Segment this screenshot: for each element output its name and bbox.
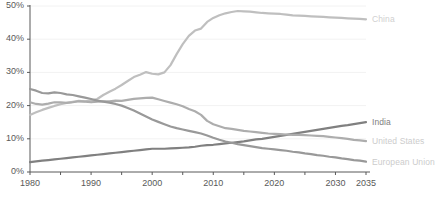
x-axis-tick-label: 2020 [254,178,294,188]
series-line-china [30,11,366,115]
series-line-european-union [30,89,366,162]
series-label-china: China [372,14,395,24]
series-label-united-states: United States [372,136,424,146]
chart-plot-area [0,0,438,199]
y-axis-tick-label: 30% [0,66,24,76]
y-axis-tick-label: 20% [0,100,24,110]
series-line-united-states [30,98,366,141]
y-axis-tick-label: 40% [0,33,24,43]
line-chart: 0%10%20%30%40%50%19801990200020102020203… [0,0,438,199]
y-axis-tick-label: 10% [0,133,24,143]
series-line-india [30,122,366,162]
x-axis-tick-label: 1980 [10,178,50,188]
series-label-european-union: European Union [372,157,435,167]
x-axis-tick-label: 2000 [132,178,172,188]
series-label-india: India [372,117,391,127]
x-axis-tick-label: 2010 [193,178,233,188]
x-axis-tick-label: 2035 [346,178,386,188]
y-axis-tick-label: 50% [0,0,24,10]
x-axis-tick-label: 1990 [71,178,111,188]
y-axis-tick-label: 0% [0,166,24,176]
